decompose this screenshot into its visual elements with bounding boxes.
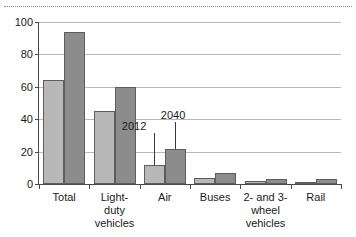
plot-area (39, 22, 341, 184)
x-tick-mark (190, 184, 191, 189)
bar-2012-light-duty-vehicles (94, 111, 115, 184)
x-tick-mark (140, 184, 141, 189)
x-label-line: vehicles (230, 217, 302, 230)
chart-figure: 020406080100 TotalLight-dutyvehiclesAirB… (0, 0, 356, 237)
bar-2040-rail (316, 179, 337, 184)
x-tick-mark (240, 184, 241, 189)
x-label-line: wheel (230, 204, 302, 217)
bar-2040-light-duty-vehicles (115, 87, 136, 184)
bar-2012-buses (194, 178, 215, 184)
x-tick-mark (291, 184, 292, 189)
annotation-label-2012: 2012 (122, 121, 146, 132)
x-label-line: duty (79, 204, 151, 217)
bar-2040-buses (215, 173, 236, 184)
x-label-line: Rail (280, 191, 352, 204)
y-tick-label: 100 (0, 17, 33, 28)
bar-2012-total (43, 80, 64, 184)
x-tick-mark (89, 184, 90, 189)
y-tick-label: 0 (0, 179, 33, 190)
bar-2040-2-and-3-wheel-vehicles (266, 179, 287, 184)
x-tick-mark (39, 184, 40, 189)
y-tick-label: 20 (0, 147, 33, 158)
bar-2012-2-and-3-wheel-vehicles (245, 181, 266, 184)
x-label-line: vehicles (79, 217, 151, 230)
top-dotted-rule (4, 6, 352, 7)
annotation-leader-2040 (175, 122, 176, 149)
bar-2040-air (165, 149, 186, 184)
x-axis-label-rail: Rail (280, 191, 352, 204)
x-tick-mark (341, 184, 342, 189)
y-tick-label: 40 (0, 114, 33, 125)
y-tick-label: 60 (0, 82, 33, 93)
bar-2012-rail (295, 182, 316, 184)
annotation-label-2040: 2040 (161, 110, 185, 121)
y-tick-label: 80 (0, 49, 33, 60)
annotation-leader-2012 (154, 133, 155, 165)
bar-2040-total (64, 32, 85, 184)
bar-2012-air (144, 165, 165, 184)
